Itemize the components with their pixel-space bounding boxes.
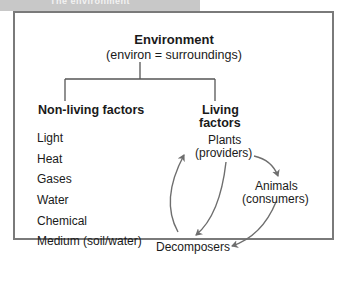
- node-plants-role: (providers): [195, 146, 252, 160]
- list-item: Chemical: [37, 214, 87, 228]
- list-item: Water: [37, 193, 69, 207]
- tree-connector-lines: [65, 62, 215, 101]
- diagram-subtitle: (environ = surroundings): [0, 48, 348, 62]
- non-living-heading: Non-living factors: [38, 103, 144, 117]
- list-item: Light: [37, 131, 63, 145]
- arrow-plants-to-decomposers: [196, 162, 226, 235]
- diagram-title: Environment: [0, 32, 348, 47]
- list-item: Gases: [37, 172, 72, 186]
- node-plants-name: Plants: [208, 133, 241, 147]
- node-animals-name: Animals: [255, 179, 298, 193]
- node-animals-role: (consumers): [242, 192, 309, 206]
- arrow-animals-to-decomposers: [232, 202, 276, 246]
- arrow-decomposers-to-plants: [170, 155, 184, 232]
- living-heading-line2: factors: [199, 116, 241, 130]
- arrow-plants-to-animals: [254, 156, 278, 176]
- list-item: Medium (soil/water): [37, 234, 142, 248]
- list-item: Heat: [37, 152, 62, 166]
- living-heading-line1: Living: [202, 103, 239, 117]
- node-decomposers: Decomposers: [156, 240, 230, 254]
